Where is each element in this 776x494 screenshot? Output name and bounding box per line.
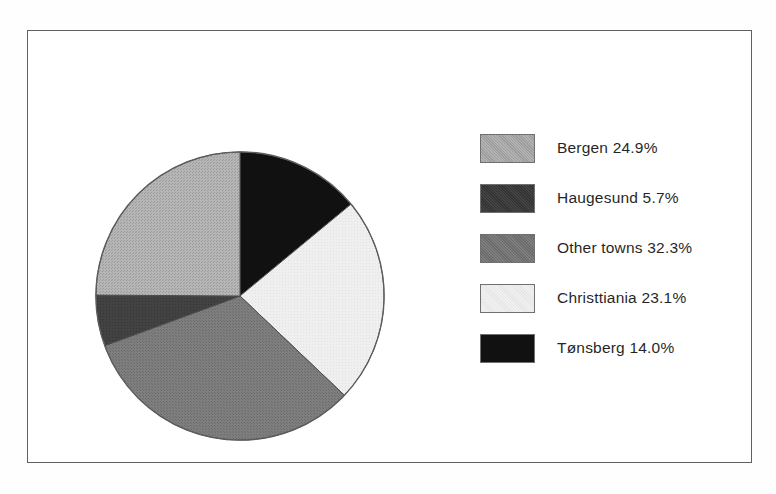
legend-item-other-towns: Other towns 32.3%: [480, 223, 750, 273]
pie-slice-bergen: [96, 152, 240, 296]
legend-label-tonsberg: Tønsberg 14.0%: [557, 339, 674, 357]
legend-item-bergen: Bergen 24.9%: [480, 123, 750, 173]
legend-item-christtiania: Christtiania 23.1%: [480, 273, 750, 323]
pie-chart-svg: [94, 150, 386, 442]
legend-label-haugesund: Haugesund 5.7%: [557, 189, 679, 207]
legend-swatch-other-towns: [480, 234, 535, 263]
legend-swatch-haugesund: [480, 184, 535, 213]
legend-label-christtiania: Christtiania 23.1%: [557, 289, 686, 307]
figure-frame: Bergen 24.9% Haugesund 5.7% Other towns …: [27, 30, 752, 463]
legend-swatch-christtiania: [480, 284, 535, 313]
legend-label-bergen: Bergen 24.9%: [557, 139, 658, 157]
page-background: Bergen 24.9% Haugesund 5.7% Other towns …: [0, 0, 776, 494]
pie-slice-group: [96, 152, 384, 440]
legend-item-haugesund: Haugesund 5.7%: [480, 173, 750, 223]
legend-label-other-towns: Other towns 32.3%: [557, 239, 692, 257]
legend-item-tonsberg: Tønsberg 14.0%: [480, 323, 750, 373]
legend-swatch-tonsberg: [480, 334, 535, 363]
pie-chart: [94, 150, 386, 442]
chart-legend: Bergen 24.9% Haugesund 5.7% Other towns …: [480, 123, 750, 373]
legend-swatch-bergen: [480, 134, 535, 163]
